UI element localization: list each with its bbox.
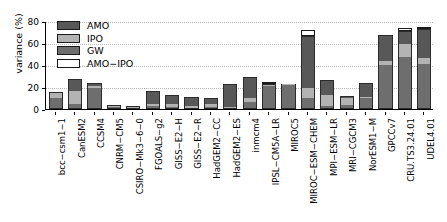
x-tick-label: CCSM4 <box>97 118 106 148</box>
x-tick-mark <box>152 112 153 115</box>
bar-segment-amo <box>340 96 354 98</box>
bar-segment-ipo <box>68 91 82 103</box>
bar-segment-amo <box>107 105 121 107</box>
variance-stacked-bar-chart: variance (%) 020406080 bcc−csm1−1CanESM2… <box>0 0 447 222</box>
x-tick-mark <box>423 112 424 115</box>
bar-segment-ipo <box>340 98 354 105</box>
legend-item-amo: AMO <box>57 20 133 32</box>
x-tick-label: inmcm4 <box>252 118 261 152</box>
bar-segment-gw <box>359 98 373 109</box>
bar-segment-ipo <box>184 106 198 108</box>
bar-segment-gw <box>243 102 257 109</box>
bar-segment-ipo <box>165 104 179 107</box>
bar-segment-gw <box>378 65 392 109</box>
legend-swatch-gw <box>57 46 80 55</box>
x-tick-mark <box>229 112 230 115</box>
bar-segment-gw <box>49 98 63 109</box>
bar-segment-ipo <box>320 95 334 106</box>
y-tick-label: 20 <box>28 84 39 93</box>
bar-segment-amoipo <box>398 28 412 31</box>
bar-slot <box>162 22 181 109</box>
bar-segment-gw <box>223 108 237 109</box>
legend-item-amo-ipo: AMO−IPO <box>57 58 133 70</box>
bar-segment-amo <box>223 84 237 107</box>
x-tick-mark <box>74 112 75 115</box>
x-tick-mark <box>365 112 366 115</box>
x-tick-label: NorESM1−M <box>369 118 378 171</box>
bar-segment-ipo <box>107 106 121 107</box>
bar-segment-ipo <box>417 58 431 64</box>
x-tick-label: MRI−CGCM3 <box>349 118 358 172</box>
bar-slot <box>376 22 395 109</box>
x-tick-label: MIROC−ESM−CHEM <box>310 118 319 204</box>
bar-segment-gw <box>107 107 121 109</box>
bar-segment-amo <box>320 80 334 94</box>
bar-slot <box>298 22 317 109</box>
bar-slot <box>279 22 298 109</box>
bar-segment-amo <box>146 91 160 104</box>
bar-segment-amo <box>68 79 82 91</box>
x-tick-label: MPI−ESM−LR <box>330 118 339 176</box>
bar-segment-gw <box>417 64 431 109</box>
legend-label-amo: AMO <box>87 21 109 31</box>
x-tick-mark <box>191 112 192 115</box>
bar-slot <box>356 22 375 109</box>
bar-segment-amo <box>359 83 373 97</box>
legend-swatch-ipo <box>57 34 80 43</box>
bar-segment-gw <box>262 86 276 109</box>
y-tick-label: 60 <box>28 40 39 49</box>
x-tick-label: MIROC5 <box>291 118 300 152</box>
legend-swatch-amo <box>57 21 80 30</box>
x-tick-label: FGOALS−g2 <box>155 118 164 170</box>
x-tick-mark <box>385 112 386 115</box>
bar-segment-amoipo <box>301 30 315 37</box>
bar-segment-amoipo <box>417 27 431 29</box>
bar-segment-gw <box>398 57 412 109</box>
y-axis: 020406080 <box>0 22 45 111</box>
x-tick-mark <box>55 112 56 115</box>
bar-segment-ipo <box>281 84 295 85</box>
bar-slot <box>240 22 259 109</box>
x-tick-mark <box>210 112 211 115</box>
bar-slot <box>201 22 220 109</box>
x-tick-label: UDEL4.01 <box>427 118 436 160</box>
x-tick-mark <box>132 112 133 115</box>
x-tick-mark <box>249 112 250 115</box>
bar-slot <box>395 22 414 109</box>
bar-segment-amo <box>378 35 392 60</box>
bar-slot <box>318 22 337 109</box>
x-tick-mark <box>113 112 114 115</box>
bar-segment-gw <box>146 106 160 109</box>
bar-segment-gw <box>165 107 179 109</box>
x-tick-label: HadGEM2−CC <box>213 118 222 179</box>
bar-segment-ipo <box>87 86 101 88</box>
x-tick-mark <box>404 112 405 115</box>
bar-segment-gw <box>301 98 315 109</box>
bar-segment-ipo <box>262 85 276 86</box>
bar-segment-gw <box>281 85 295 109</box>
y-tick-label: 0 <box>33 106 39 115</box>
bar-segment-amo <box>87 83 101 86</box>
bar-segment-amo <box>165 95 179 104</box>
x-tick-mark <box>326 112 327 115</box>
x-tick-mark <box>288 112 289 115</box>
legend-swatch-amo-ipo <box>57 59 80 68</box>
x-tick-mark <box>307 112 308 115</box>
bar-segment-ipo <box>243 98 257 102</box>
bar-segment-amo <box>417 29 431 59</box>
bar-slot <box>415 22 434 109</box>
bar-segment-ipo <box>204 104 218 107</box>
bar-slot <box>337 22 356 109</box>
x-tick-label: IPSL−CM5A−LR <box>272 118 281 185</box>
x-tick-mark <box>171 112 172 115</box>
bar-segment-ipo <box>359 97 373 98</box>
bar-slot <box>221 22 240 109</box>
x-tick-label: GPCCv7 <box>388 118 397 152</box>
bar-segment-amo <box>243 77 257 98</box>
legend-label-amo-ipo: AMO−IPO <box>87 59 133 69</box>
legend-item-gw: GW <box>57 45 133 57</box>
x-tick-mark <box>346 112 347 115</box>
y-tick-label: 80 <box>28 18 39 27</box>
bar-segment-ipo <box>301 88 315 98</box>
bar-segment-gw <box>68 104 82 110</box>
